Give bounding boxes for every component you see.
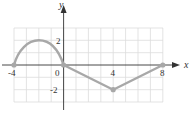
tick-y-neg2: -2 [50, 85, 58, 95]
tick-y-2: 2 [56, 36, 61, 46]
function-graph: x y -4 0 4 8 2 -2 [0, 0, 195, 117]
x-axis-label: x [183, 59, 189, 70]
y-axis-label: y [58, 0, 64, 10]
tick-x-0: 0 [55, 68, 60, 78]
tick-x-8: 8 [160, 68, 165, 78]
axes [2, 9, 176, 110]
tick-x-neg4: -4 [8, 68, 16, 78]
x-axis-arrow-icon [172, 62, 180, 68]
tick-x-4: 4 [111, 68, 116, 78]
chart-svg: x y -4 0 4 8 2 -2 [0, 0, 195, 117]
